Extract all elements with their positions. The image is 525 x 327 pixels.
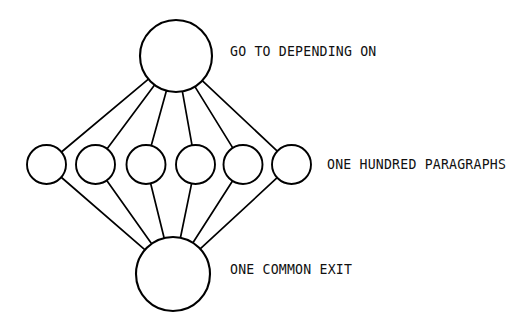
diagram-canvas: GO TO DEPENDING ON ONE HUNDRED PARAGRAPH… [0,0,525,327]
paragraph-node-circle[interactable] [176,145,215,184]
entry-node-circle[interactable] [140,20,212,92]
label-one-common-exit: ONE COMMON EXIT [230,262,352,277]
connector-line [193,181,233,243]
connector-line [180,184,191,238]
connector-line [151,91,166,146]
connector-line [107,180,152,243]
connector-line [195,87,233,148]
exit-node-circle[interactable] [136,237,210,311]
connector-line [151,183,164,238]
connector-line [61,177,145,250]
paragraph-node-circle[interactable] [272,145,311,184]
connector-line [182,91,192,145]
paragraph-node-circle[interactable] [127,145,166,184]
label-go-to-depending-on: GO TO DEPENDING ON [230,44,377,59]
label-one-hundred-paragraphs: ONE HUNDRED PARAGRAPHS [327,157,506,172]
node-link-diagram: GO TO DEPENDING ON ONE HUNDRED PARAGRAPH… [0,0,525,327]
paragraph-node-circle[interactable] [27,145,66,184]
connector-line [61,79,148,152]
paragraph-node-circle[interactable] [76,145,115,184]
paragraph-node-circle[interactable] [224,145,263,184]
paragraph-node-group [27,145,311,184]
